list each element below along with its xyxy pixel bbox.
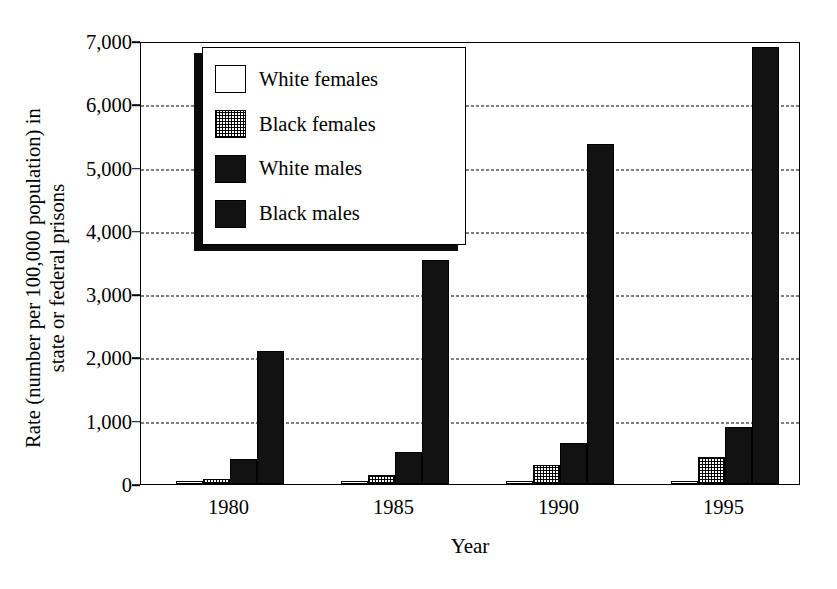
legend-item[interactable]: Black males [215,194,455,234]
x-axis-tick-label: 1995 [679,496,769,519]
bar [671,481,698,484]
bar-group [671,43,779,484]
y-axis-tick-mark [132,358,140,360]
y-axis-tick-labels: 01,0002,0003,0004,0005,0006,0007,000 [44,0,132,589]
y-axis-tick-mark [132,484,140,486]
x-axis-tick-label: 1980 [184,496,274,519]
bar [587,144,614,484]
bar [341,481,368,484]
legend-item[interactable]: White females [215,59,455,99]
y-axis-tick-mark [132,104,140,106]
bar [533,465,560,484]
bar [230,459,257,484]
legend-item-label: White females [259,68,378,91]
y-axis-tick-label: 3,000 [50,285,132,306]
y-axis-tick-label: 6,000 [50,95,132,116]
legend-item-label: Black females [259,113,376,136]
legend-item-label: Black males [259,202,360,225]
chart-legend: White femalesBlack femalesWhite malesBla… [202,47,466,245]
bar [176,481,203,484]
legend-swatch-icon [215,65,246,93]
bar [368,475,395,484]
y-axis-tick-mark [132,421,140,423]
y-axis-tick-label: 5,000 [50,158,132,179]
y-axis-tick-label: 2,000 [50,348,132,369]
bar [506,481,533,484]
chart-figure: Rate (number per 100,000 population) in … [0,0,837,589]
bar [698,457,725,484]
legend-swatch-icon [215,155,246,183]
x-axis-tick-label: 1990 [514,496,604,519]
y-axis-tick-mark [132,231,140,233]
legend-swatch-icon [215,200,246,228]
legend-item[interactable]: White males [215,149,455,189]
y-axis-tick-label: 4,000 [50,222,132,243]
bar [422,260,449,484]
legend-swatch-icon [215,110,246,138]
bar [725,427,752,484]
bar [203,479,230,484]
bar [395,452,422,484]
bar [560,443,587,484]
y-axis-tick-label: 1,000 [50,411,132,432]
x-axis-tick-label: 1985 [349,496,439,519]
y-axis-tick-label: 7,000 [50,32,132,53]
bar-group [506,43,614,484]
y-axis-tick-mark [132,41,140,43]
x-axis-title: Year [140,534,800,559]
bar [752,47,779,484]
legend-item-label: White males [259,157,362,180]
bar [257,351,284,484]
y-axis-tick-label: 0 [50,475,132,496]
y-axis-tick-mark [132,168,140,170]
y-axis-tick-mark [132,294,140,296]
y-axis-title-line-1: Rate (number per 100,000 population) in [21,108,45,448]
legend-item[interactable]: Black females [215,104,455,144]
